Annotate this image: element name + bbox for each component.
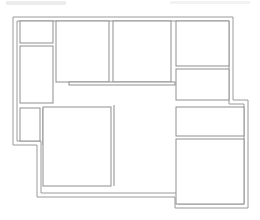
room-bottom-right-upper	[176, 107, 244, 136]
room-left-nook	[20, 108, 40, 141]
room-right-middle	[176, 69, 229, 100]
room-bottom-center	[43, 107, 111, 186]
room-top-right	[176, 21, 229, 66]
room-bottom-right-lower	[176, 139, 244, 204]
room-top-center-right	[113, 21, 171, 82]
room-top-left-small	[20, 21, 53, 43]
floor-plan	[0, 0, 260, 220]
corridor-wall	[69, 82, 175, 85]
room-left-tall	[20, 46, 53, 103]
room-top-center-left	[56, 21, 109, 82]
